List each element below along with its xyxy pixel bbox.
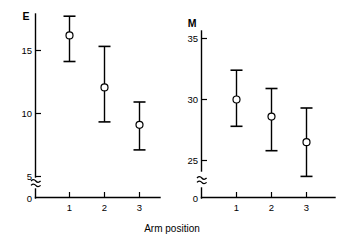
panel-e-xtick-label-3: 3 [137, 202, 142, 213]
panel-e-ytick-label-0: 0 [27, 193, 32, 204]
panel-e-axis-label: E [22, 10, 29, 22]
panel-m-ytick-label-25: 25 [187, 155, 198, 166]
panel-m-y-ticks [202, 39, 208, 161]
panel-m-xtick-label-3: 3 [304, 202, 309, 213]
panel-e-marker-2 [101, 84, 108, 91]
panel-e-marker-1 [66, 32, 73, 39]
panel-e-x-ticks [70, 192, 140, 198]
panel-m-datapoint-2 [266, 89, 278, 151]
panel-m-datapoint-1 [231, 70, 243, 126]
panel-e-xtick-label-2: 2 [102, 202, 107, 213]
panel-m-marker-3 [303, 139, 310, 146]
panel-m-datapoint-3 [301, 108, 313, 176]
panel-m-ytick-label-35: 35 [187, 33, 198, 44]
panel-e: E 15 10 5 0 [21, 10, 160, 213]
panel-e-datapoint-3 [134, 102, 146, 150]
figure-container: E 15 10 5 0 [0, 0, 345, 245]
panel-e-datapoint-1 [64, 16, 76, 61]
x-axis-caption: Arm position [144, 223, 200, 234]
panel-e-marker-3 [136, 121, 143, 128]
panel-m-axis-label: M [188, 17, 197, 29]
panel-m-ytick-label-30: 30 [187, 94, 198, 105]
panel-m-xtick-label-1: 1 [234, 202, 239, 213]
panel-e-axis-break-icon [31, 180, 41, 187]
panel-e-ytick-label-10: 10 [21, 108, 32, 119]
panel-m-x-ticks [237, 192, 307, 198]
panel-m-ytick-label-0: 0 [193, 193, 198, 204]
panel-m: M 35 30 25 0 [187, 17, 335, 213]
panel-e-xtick-label-1: 1 [67, 202, 72, 213]
panel-e-datapoint-2 [99, 46, 111, 122]
panel-e-ytick-label-15: 15 [21, 45, 32, 56]
panel-m-marker-1 [233, 96, 240, 103]
panel-m-axis-break-icon [197, 177, 207, 184]
panel-e-ytick-label-5: 5 [27, 171, 32, 182]
panel-e-y-ticks [36, 51, 42, 177]
panel-m-marker-2 [268, 113, 275, 120]
panel-m-xtick-label-2: 2 [269, 202, 274, 213]
